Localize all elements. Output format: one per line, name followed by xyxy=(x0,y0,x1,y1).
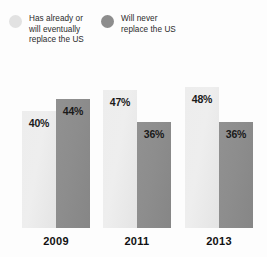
legend-item-label: Has already or will eventually replace t… xyxy=(29,14,84,46)
x-axis-tick-2011: 2011 xyxy=(103,235,171,247)
bar-group-2013: 48% 36% xyxy=(185,52,253,228)
bar-group-2009: 40% 44% xyxy=(22,52,90,228)
bar-2013-light: 48% xyxy=(185,87,219,228)
bar-2011-light: 47% xyxy=(103,90,137,228)
plot-area: 40% 44% 47% 36% 48% 36% xyxy=(0,52,267,228)
x-axis-tick-2009: 2009 xyxy=(22,235,90,247)
bar-value-label: 36% xyxy=(219,128,253,140)
bar-2009-light: 40% xyxy=(22,111,56,228)
x-axis-tick-2013: 2013 xyxy=(185,235,253,247)
legend-item-will-never-replace: Will never replace the US xyxy=(101,14,176,35)
bar-value-label: 47% xyxy=(103,96,137,108)
x-axis: 2009 2011 2013 xyxy=(0,228,267,257)
chart-legend: Has already or will eventually replace t… xyxy=(0,0,267,52)
bar-2013-dark: 36% xyxy=(219,122,253,228)
bar-value-label: 44% xyxy=(56,105,90,117)
bar-2011-dark: 36% xyxy=(137,122,171,228)
bar-value-label: 36% xyxy=(137,128,171,140)
bar-value-label: 48% xyxy=(185,93,219,105)
circle-swatch-light-icon xyxy=(9,15,22,28)
bar-value-label: 40% xyxy=(22,117,56,129)
bar-2009-dark: 44% xyxy=(56,99,90,228)
grouped-bar-chart: Has already or will eventually replace t… xyxy=(0,0,267,257)
legend-item-has-already-or-will-replace: Has already or will eventually replace t… xyxy=(9,14,84,46)
circle-swatch-dark-icon xyxy=(101,15,114,28)
legend-item-label: Will never replace the US xyxy=(121,14,176,35)
bar-group-2011: 47% 36% xyxy=(103,52,171,228)
